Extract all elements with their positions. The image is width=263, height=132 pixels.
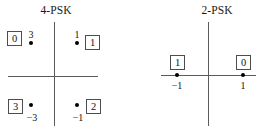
constellation-point-4psk-3 <box>29 103 33 107</box>
coord-label-4psk-1: 1 <box>70 29 84 40</box>
symbol-box-4psk-0: 0 <box>7 31 22 46</box>
panel-2psk: 2-PSK 1 −1 0 1 <box>131 0 263 132</box>
horizontal-axis-4psk <box>8 76 98 77</box>
constellation-point-4psk-1 <box>75 41 79 45</box>
panel-title-2psk: 2-PSK <box>161 4 263 17</box>
symbol-box-2psk-1: 1 <box>170 55 185 70</box>
panel-title-4psk: 4-PSK <box>0 4 112 17</box>
symbol-box-4psk-2: 2 <box>86 99 101 114</box>
coord-label-4psk-3: −3 <box>24 112 40 123</box>
vertical-axis-4psk <box>54 22 55 126</box>
vertical-axis-2psk <box>208 22 209 126</box>
constellation-point-4psk-2 <box>75 103 79 107</box>
constellation-point-2psk-0 <box>241 73 245 77</box>
constellation-point-2psk-1 <box>175 73 179 77</box>
coord-label-2psk-1: −1 <box>169 80 185 91</box>
constellation-figure: 4-PSK 0 3 1 1 3 −3 −1 2 2-PSK 1 −1 0 1 <box>0 0 263 132</box>
symbol-box-4psk-3: 3 <box>8 99 23 114</box>
coord-label-4psk-2: −1 <box>70 112 86 123</box>
constellation-point-4psk-0 <box>29 41 33 45</box>
panel-4psk: 4-PSK 0 3 1 1 3 −3 −1 2 <box>0 0 131 132</box>
coord-label-2psk-0: 1 <box>236 80 250 91</box>
symbol-box-2psk-0: 0 <box>236 55 251 70</box>
coord-label-4psk-0: 3 <box>24 29 38 40</box>
symbol-box-4psk-1: 1 <box>85 35 100 50</box>
